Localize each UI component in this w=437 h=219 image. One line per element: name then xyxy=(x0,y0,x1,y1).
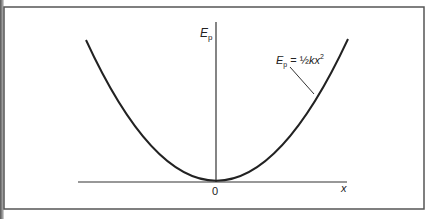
label-leader-line xyxy=(290,67,314,94)
curve-equation-label: Ep = ½kx2 xyxy=(276,53,324,69)
origin-label: 0 xyxy=(212,185,218,197)
y-axis-label: Ep xyxy=(200,26,213,42)
x-axis-label: x xyxy=(340,182,347,194)
figure-frame xyxy=(4,7,424,209)
potential-energy-diagram: Ep 0 x Ep = ½kx2 xyxy=(0,0,437,219)
